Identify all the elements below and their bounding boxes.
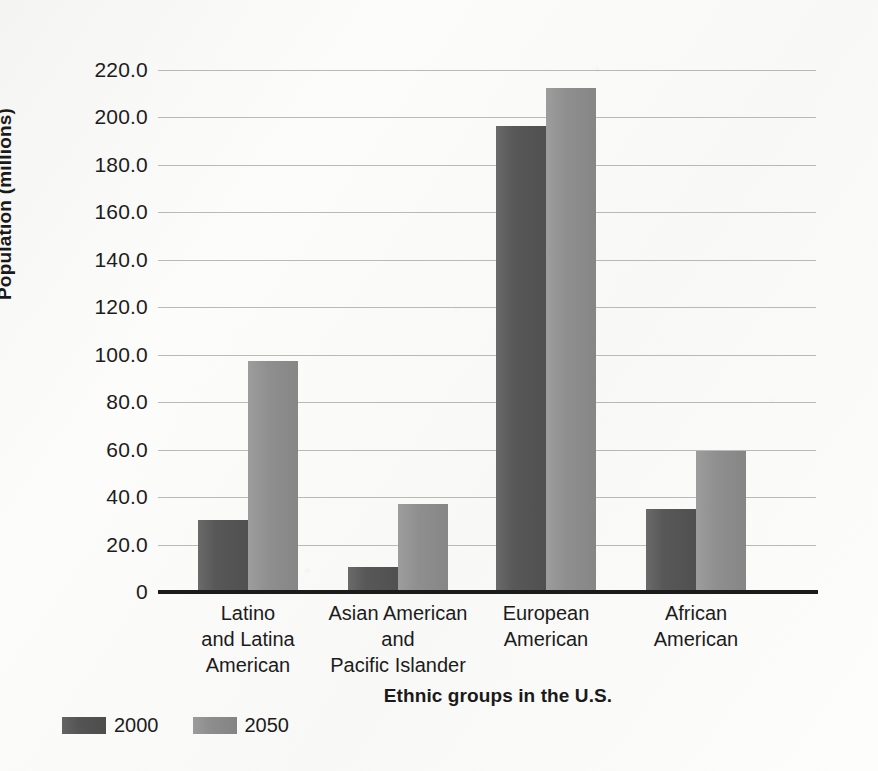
- gridline: [158, 212, 816, 213]
- y-axis-tick-label: 40.0: [106, 485, 148, 509]
- gridline: [158, 165, 816, 166]
- y-axis-title: Population (millions): [0, 108, 16, 300]
- y-axis-tick-label: 60.0: [106, 438, 148, 462]
- gridline: [158, 355, 816, 356]
- bar-2000-group-4: [646, 509, 696, 592]
- x-axis-category-line: African: [586, 600, 806, 626]
- plot-area: [158, 70, 816, 592]
- bar-2000-group-2: [348, 567, 398, 592]
- legend-swatch-icon: [62, 717, 106, 734]
- y-axis-tick-label: 220.0: [94, 58, 148, 82]
- y-axis-tick-label: 200.0: [94, 105, 148, 129]
- bar-2000-group-1: [198, 520, 248, 592]
- x-axis-line: [158, 590, 818, 594]
- gridline: [158, 307, 816, 308]
- y-axis-tick-labels: 020.040.060.080.0100.0120.0140.0160.0180…: [0, 0, 148, 771]
- x-axis-category-label: AfricanAmerican: [586, 600, 806, 652]
- gridline: [158, 117, 816, 118]
- gridline: [158, 260, 816, 261]
- y-axis-tick-label: 160.0: [94, 200, 148, 224]
- bar-2000-group-3: [496, 126, 546, 592]
- gridline: [158, 70, 816, 71]
- bar-2050-group-4: [696, 451, 746, 592]
- y-axis-tick-label: 140.0: [94, 248, 148, 272]
- y-axis-tick-label: 180.0: [94, 153, 148, 177]
- bar-2050-group-1: [248, 361, 298, 592]
- legend-label: 2000: [114, 714, 159, 737]
- y-axis-tick-label: 100.0: [94, 343, 148, 367]
- chart-legend: 20002050: [62, 714, 289, 737]
- bar-2050-group-2: [398, 504, 448, 592]
- y-axis-tick-label: 80.0: [106, 390, 148, 414]
- y-axis-tick-label: 20.0: [106, 533, 148, 557]
- x-axis-title: Ethnic groups in the U.S.: [384, 685, 612, 707]
- x-axis-title-wrap: Ethnic groups in the U.S.: [0, 685, 878, 707]
- chart-figure: 020.040.060.080.0100.0120.0140.0160.0180…: [0, 0, 878, 771]
- legend-label: 2050: [245, 714, 290, 737]
- legend-swatch-icon: [193, 717, 237, 734]
- bar-2050-group-3: [546, 88, 596, 592]
- y-axis-tick-label: 120.0: [94, 295, 148, 319]
- x-axis-category-line: American: [586, 626, 806, 652]
- x-axis-category-line: Pacific Islander: [288, 652, 508, 678]
- legend-item-2050[interactable]: 2050: [193, 714, 290, 737]
- legend-item-2000[interactable]: 2000: [62, 714, 159, 737]
